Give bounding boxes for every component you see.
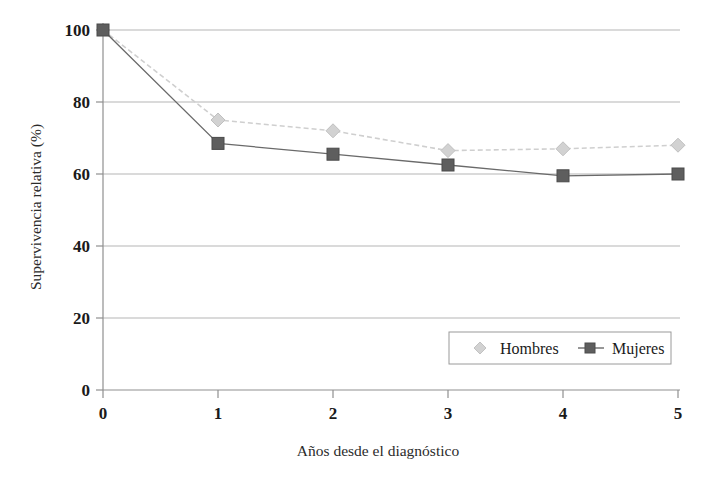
x-axis-title: Años desde el diagnóstico <box>297 442 460 459</box>
y-tick-label-20: 20 <box>73 309 90 328</box>
x-tick-label-2: 2 <box>329 404 338 423</box>
legend-label-mujeres: Mujeres <box>612 340 664 358</box>
y-tick-label-60: 60 <box>73 165 90 184</box>
data-point-mujeres-x3 <box>442 159 454 171</box>
data-point-mujeres-x4 <box>557 170 569 182</box>
x-tick-label-0: 0 <box>99 404 108 423</box>
x-tick-label-4: 4 <box>559 404 568 423</box>
x-tick-label-5: 5 <box>674 404 683 423</box>
chart-page: 100 80 60 40 20 0 0 1 2 3 4 5 Años desde… <box>0 0 701 485</box>
y-tick-label-0: 0 <box>82 381 91 400</box>
square-marker-icon <box>585 343 595 353</box>
x-tick-label-1: 1 <box>214 404 223 423</box>
legend-label-hombres: Hombres <box>500 340 559 357</box>
y-tick-label-40: 40 <box>73 237 90 256</box>
chart-legend: Hombres Mujeres <box>449 332 671 364</box>
x-tick-label-3: 3 <box>444 404 453 423</box>
data-point-mujeres-x0 <box>97 24 109 36</box>
survival-line-chart: 100 80 60 40 20 0 0 1 2 3 4 5 Años desde… <box>0 0 701 485</box>
data-point-mujeres-x1 <box>212 137 224 149</box>
data-point-mujeres-x5 <box>672 168 684 180</box>
data-point-mujeres-x2 <box>327 148 339 160</box>
y-axis-title: Supervivencia relativa (%) <box>27 124 45 290</box>
y-tick-label-100: 100 <box>65 21 91 40</box>
y-tick-label-80: 80 <box>73 93 90 112</box>
